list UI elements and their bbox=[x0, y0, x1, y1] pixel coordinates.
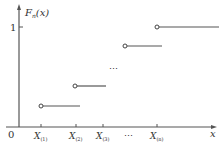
open-circle-icon bbox=[123, 44, 127, 48]
x-tick-label: X(2) bbox=[68, 131, 83, 142]
steps-ellipsis: ⋯ bbox=[109, 64, 118, 74]
x-tick-label: X(1) bbox=[33, 131, 48, 142]
open-circle-icon bbox=[155, 25, 159, 29]
x-tick-label: X(n) bbox=[149, 131, 164, 142]
x-axis-label: x bbox=[210, 128, 216, 139]
step-function-chart: 1 Fn(x) 0 x X(1) X(2) X(3) ⋯ X(n) ⋯ bbox=[0, 0, 221, 162]
y-tick-label: 1 bbox=[10, 22, 16, 33]
open-circle-icon bbox=[39, 104, 43, 108]
y-axis-arrow-icon bbox=[17, 4, 21, 10]
origin-label: 0 bbox=[8, 129, 14, 140]
y-axis-label: Fn(x) bbox=[24, 7, 49, 19]
x-tick-ellipsis: ⋯ bbox=[124, 131, 133, 141]
open-circle-icon bbox=[73, 84, 77, 88]
x-tick-label: X(3) bbox=[95, 131, 110, 142]
